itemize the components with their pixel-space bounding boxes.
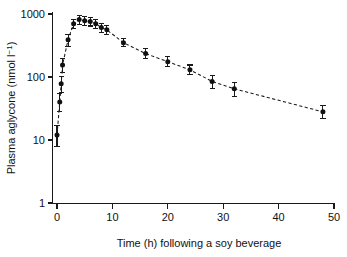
data-point-marker — [57, 100, 62, 105]
data-point-marker — [187, 67, 192, 72]
x-tick-label: 50 — [328, 211, 340, 223]
data-point-marker — [210, 79, 215, 84]
y-tick-label: 1 — [39, 197, 45, 209]
x-tick-label: 20 — [162, 211, 174, 223]
data-point-marker — [93, 21, 98, 26]
data-point-marker — [77, 17, 82, 22]
data-point-marker — [143, 51, 148, 56]
y-tick-label: 1000 — [21, 8, 45, 20]
data-point-marker — [55, 133, 60, 138]
data-point-marker — [71, 21, 76, 26]
x-tick-label: 30 — [217, 211, 229, 223]
x-tick-label: 10 — [106, 211, 118, 223]
data-series-group — [54, 15, 325, 146]
data-point-marker — [59, 81, 64, 86]
data-point-marker — [60, 63, 65, 68]
series-line-dashed — [57, 19, 323, 135]
x-axis-title: Time (h) following a soy beverage — [117, 237, 282, 249]
y-tick-label: 100 — [27, 71, 45, 83]
error-bars-group — [54, 15, 325, 146]
data-point-marker — [232, 86, 237, 91]
chart-figure: 1101001000 01020304050 Time (h) followin… — [0, 0, 347, 257]
data-point-marker — [320, 109, 325, 114]
x-axis-ticks: 01020304050 — [54, 204, 340, 224]
y-axis-title: Plasma aglycone (nmol l−1) — [5, 42, 18, 175]
plasma-aglycone-log-plot: 1101001000 01020304050 Time (h) followin… — [0, 0, 347, 257]
x-tick-label: 0 — [54, 211, 60, 223]
data-point-marker — [88, 19, 93, 24]
y-axis-ticks: 1101001000 — [21, 8, 53, 209]
plot-axes — [53, 12, 336, 204]
data-point-marker — [165, 59, 170, 64]
data-point-marker — [66, 37, 71, 42]
data-point-marker — [82, 18, 87, 23]
x-tick-label: 40 — [272, 211, 284, 223]
y-tick-label: 10 — [33, 134, 45, 146]
data-point-marker — [121, 40, 126, 45]
data-point-marker — [104, 27, 109, 32]
data-markers-group — [55, 17, 326, 138]
data-point-marker — [99, 25, 104, 30]
